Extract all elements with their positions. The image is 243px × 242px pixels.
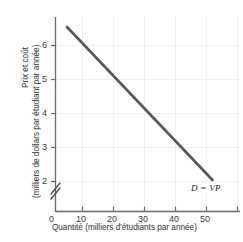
y-tick-label-3: 3 xyxy=(42,143,47,152)
demand-curve-label: D = VP xyxy=(191,183,221,193)
x-tick-marks xyxy=(83,207,238,212)
y-axis-title: Prix et coût xyxy=(22,47,30,88)
y-tick-label-2: 2 xyxy=(42,177,47,186)
y-tick-label-6: 6 xyxy=(42,41,47,50)
y-axis-title-unit: (milliers de dollars par étudiant par an… xyxy=(33,45,41,198)
demand-curve-line xyxy=(67,27,213,180)
x-axis-title: Quantité (milliers d'étudiants par année… xyxy=(52,224,197,232)
x-tick-label-50: 50 xyxy=(200,215,210,224)
y-tick-marks xyxy=(51,46,56,182)
y-tick-label-5: 5 xyxy=(42,75,47,84)
y-tick-label-4: 4 xyxy=(42,109,47,118)
demand-curve-chart: 6 5 4 3 2 0 10 20 30 40 50 Quantité (mil… xyxy=(0,0,243,242)
